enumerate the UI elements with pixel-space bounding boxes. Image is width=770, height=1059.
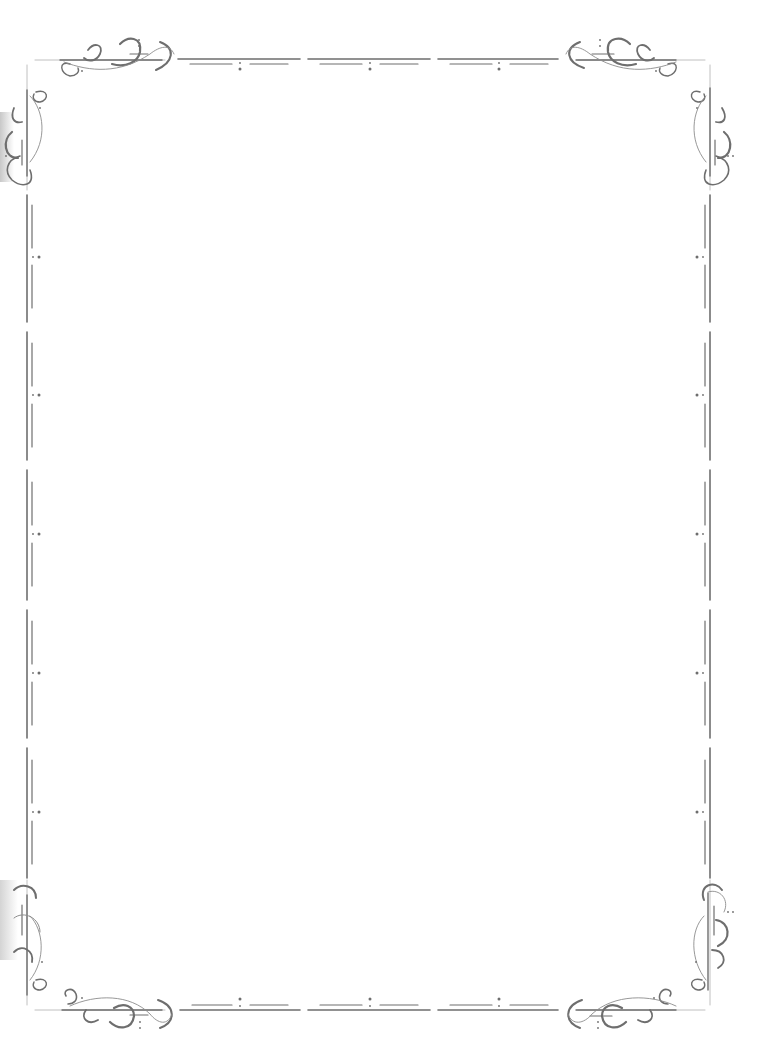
- right-border-segments: [705, 195, 710, 878]
- top-border-segments: [178, 59, 558, 64]
- top-border-dots: [239, 62, 501, 70]
- page: [0, 0, 770, 1059]
- left-border-segments: [27, 195, 32, 878]
- bottom-border-segments: [180, 1005, 558, 1010]
- corner-dots-bottom-left: [41, 961, 141, 1029]
- left-border-dots: [32, 256, 40, 814]
- right-border-dots: [696, 256, 704, 814]
- page-content-area: [60, 100, 680, 960]
